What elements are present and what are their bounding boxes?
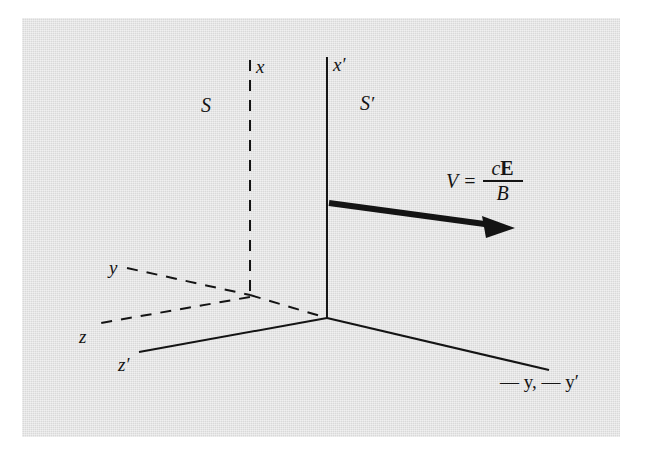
z-prime-axis-label: z′ bbox=[118, 355, 129, 374]
equation-fraction: cE B bbox=[483, 158, 523, 204]
x-prime-axis-label: x′ bbox=[333, 55, 345, 74]
frame-s-prime-label-base: S bbox=[360, 92, 370, 114]
figure-root: x x′ S S′ y z z′ — y, — y′ V = cE B bbox=[0, 0, 646, 468]
velocity-equation: V = cE B bbox=[446, 158, 523, 204]
equation-numerator-E: E bbox=[500, 157, 513, 179]
z-axis-label: z bbox=[79, 327, 86, 346]
frame-s-label: S bbox=[201, 95, 211, 115]
y-axis-label: y bbox=[109, 258, 117, 277]
equation-numerator: cE bbox=[487, 158, 517, 180]
minus-y-axes-label: — y, — y′ bbox=[500, 372, 579, 391]
equation-equals-sign: = bbox=[464, 170, 475, 193]
equation-numerator-c: c bbox=[491, 157, 500, 179]
x-prime-axis-label-mark: ′ bbox=[341, 55, 345, 75]
z-prime-axis-label-mark: ′ bbox=[125, 355, 129, 375]
frame-s-prime-label: S′ bbox=[360, 93, 374, 113]
equation-denominator: B bbox=[492, 182, 512, 204]
x-axis-label: x bbox=[256, 57, 264, 76]
frame-s-prime-label-mark: ′ bbox=[370, 93, 374, 114]
equation-lhs: V bbox=[446, 170, 458, 193]
